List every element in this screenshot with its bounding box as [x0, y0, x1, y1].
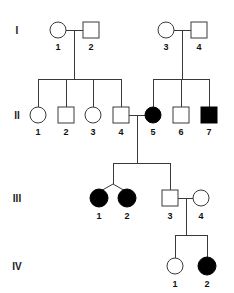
- individual-label-II-1: 1: [35, 127, 40, 137]
- drop-lines-generation-2: [38, 79, 209, 107]
- individual-IV-2-female-affected[interactable]: [198, 257, 216, 275]
- generation-label-4: IV: [12, 261, 22, 272]
- generation-1-group: 1 2 3 4: [38, 22, 209, 79]
- individual-III-4-female-unaffected[interactable]: [193, 190, 209, 206]
- individual-IV-1-female-unaffected[interactable]: [167, 258, 183, 274]
- individual-label-III-1: 1: [96, 211, 101, 221]
- individual-II-7-male-affected[interactable]: [201, 107, 217, 123]
- individual-label-II-2: 2: [63, 127, 68, 137]
- generation-labels-group: I II III IV: [12, 25, 22, 272]
- individual-II-5-female-affected[interactable]: [145, 107, 161, 123]
- generation-label-3: III: [13, 193, 22, 204]
- individual-II-1-female-unaffected[interactable]: [30, 107, 46, 123]
- pedigree-diagram: 1 2 3 4 1: [0, 0, 234, 293]
- generation-label-2: II: [14, 110, 20, 121]
- individual-II-3-female-unaffected[interactable]: [85, 107, 101, 123]
- generation-label-1: I: [16, 25, 19, 36]
- individual-label-II-7: 7: [206, 127, 211, 137]
- individual-label-III-4: 4: [198, 211, 203, 221]
- individual-II-2-male-unaffected[interactable]: [58, 107, 74, 123]
- individual-I-1-female-unaffected[interactable]: [50, 22, 66, 38]
- drop-lines-generation-4: [175, 235, 207, 258]
- individual-label-IV-2: 2: [204, 279, 209, 289]
- individual-label-II-4: 4: [118, 127, 123, 137]
- individual-label-III-2: 2: [124, 211, 129, 221]
- individual-label-II-3: 3: [90, 127, 95, 137]
- twin-fork-group: [99, 163, 170, 192]
- individual-II-6-male-unaffected[interactable]: [173, 107, 189, 123]
- individual-I-4-male-unaffected[interactable]: [191, 22, 207, 38]
- individual-label-I-2: 2: [88, 42, 93, 52]
- individual-label-I-1: 1: [55, 42, 60, 52]
- individual-I-2-male-unaffected[interactable]: [83, 22, 99, 38]
- individual-label-IV-1: 1: [172, 279, 177, 289]
- individual-label-I-3: 3: [163, 42, 168, 52]
- generation-3-group: 1 2 3 4: [90, 189, 209, 235]
- individual-III-1-female-affected[interactable]: [90, 189, 108, 207]
- individual-III-2-female-affected[interactable]: [118, 189, 136, 207]
- individual-label-II-5: 5: [150, 127, 155, 137]
- individual-II-4-male-unaffected[interactable]: [113, 107, 129, 123]
- individual-label-I-4: 4: [196, 42, 201, 52]
- individual-III-3-male-unaffected[interactable]: [162, 190, 178, 206]
- individual-I-3-female-unaffected[interactable]: [158, 22, 174, 38]
- pedigree-chart-figure: 1 2 3 4 1: [0, 0, 234, 293]
- individual-label-III-3: 3: [167, 211, 172, 221]
- individual-label-II-6: 6: [178, 127, 183, 137]
- generation-2-group: 1 2 3 4 5 6 7: [30, 107, 217, 163]
- generation-4-group: 1 2: [167, 257, 216, 289]
